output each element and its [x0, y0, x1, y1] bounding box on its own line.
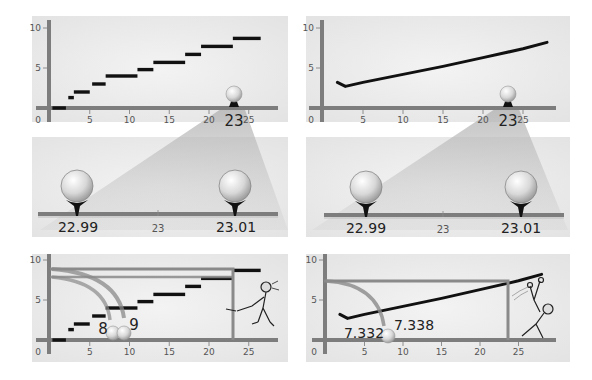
x-tick-label: 10 — [124, 347, 136, 357]
x-tick-label: 0 — [35, 347, 41, 357]
x-axis — [36, 106, 278, 110]
step-segment — [52, 338, 66, 341]
tick-label-22-99-left: 22.99 — [58, 219, 98, 235]
x-tick-label: 15 — [164, 347, 175, 357]
y-tick-label: 5 — [308, 63, 314, 73]
step-segment — [52, 106, 66, 109]
step-segment — [68, 96, 74, 99]
x-tick-label: 20 — [474, 347, 486, 357]
x-tick-label: 25 — [517, 115, 528, 125]
x-tick-label: 10 — [124, 115, 136, 125]
tick-label-23-01-right: 23.01 — [501, 220, 541, 236]
x-tick-label: 20 — [203, 115, 215, 125]
x-tick-label: 20 — [477, 115, 489, 125]
landing-label-7-338: 7.338 — [394, 317, 434, 333]
x-tick-label: 0 — [311, 347, 317, 357]
step-segment — [68, 328, 74, 331]
tick-label-23-right: 23 — [437, 224, 450, 235]
landing-label-8: 8 — [98, 320, 108, 338]
x-tick-label: 25 — [513, 347, 524, 357]
x-axis — [36, 338, 278, 342]
x-tick-label: 5 — [87, 115, 93, 125]
step-segment — [74, 322, 90, 325]
x-tick-label: 0 — [308, 115, 314, 125]
landing-label-9: 9 — [129, 316, 139, 334]
y-tick-label: 5 — [35, 63, 41, 73]
step-segment — [233, 269, 261, 272]
step-segment — [74, 90, 90, 93]
step-segment — [185, 53, 201, 56]
golf-ball-icon — [61, 170, 93, 202]
figure: 0510152025510 0510152025510 051015202551… — [0, 0, 592, 380]
x-tick-label: 5 — [362, 347, 368, 357]
step-segment — [153, 293, 185, 296]
step-segment — [106, 74, 138, 77]
step-segment — [92, 314, 106, 317]
x-tick-label: 15 — [437, 115, 448, 125]
step-segment — [137, 68, 153, 71]
y-tick-label: 10 — [306, 255, 318, 265]
step-segment — [233, 37, 261, 40]
x-tick-label: 0 — [35, 115, 41, 125]
tick-label-23-left: 23 — [152, 223, 165, 234]
y-tick-label: 10 — [30, 23, 42, 33]
x-tick-label: 25 — [243, 347, 254, 357]
x-tick-label: 15 — [436, 347, 447, 357]
step-segment — [185, 285, 201, 288]
y-tick-label: 10 — [303, 23, 315, 33]
x-tick-label: 5 — [87, 347, 93, 357]
step-segment — [201, 45, 233, 48]
landing-label-7-332: 7.332 — [344, 325, 384, 341]
golf-ball-icon — [226, 86, 242, 102]
step-segment — [153, 61, 185, 64]
x-tick-label: 15 — [164, 115, 175, 125]
golf-ball-icon — [219, 170, 251, 202]
marker-label-top-left: 23 — [224, 112, 243, 130]
tick-label-23-01-left: 23.01 — [216, 219, 256, 235]
y-tick-label: 5 — [35, 295, 41, 305]
panel-bottom-right — [306, 254, 570, 362]
tick-label-22-99-right: 22.99 — [346, 220, 386, 236]
step-segment — [137, 300, 153, 303]
golf-ball-icon — [500, 86, 516, 102]
x-tick-label: 25 — [243, 115, 254, 125]
x-tick-label: 20 — [203, 347, 215, 357]
step-segment — [92, 82, 106, 85]
x-tick-label: 10 — [397, 115, 409, 125]
golf-ball-icon — [505, 171, 537, 203]
y-tick-label: 10 — [30, 255, 42, 265]
x-axis — [309, 106, 556, 110]
marker-label-top-right: 23 — [498, 112, 517, 130]
x-tick-label: 5 — [360, 115, 366, 125]
x-tick-label: 10 — [397, 347, 409, 357]
golf-ball-icon — [350, 171, 382, 203]
y-tick-label: 5 — [311, 295, 317, 305]
